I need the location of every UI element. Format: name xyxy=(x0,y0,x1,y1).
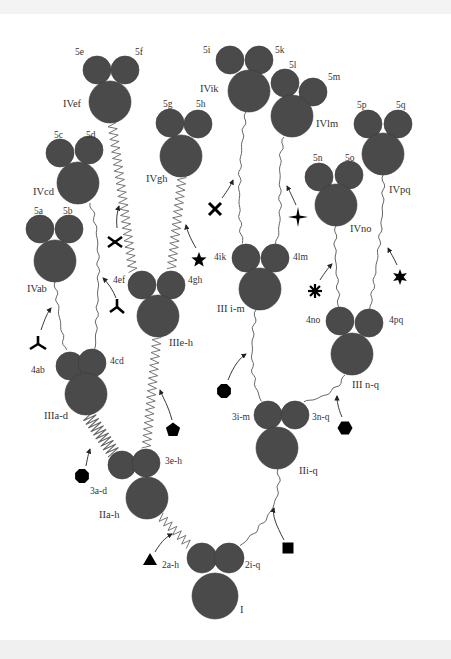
linker-IVcd-to-4cd xyxy=(90,203,100,349)
octagon-marker xyxy=(75,469,89,483)
subunit-label: 5e xyxy=(75,47,84,57)
subunit-label: 5k xyxy=(275,45,285,55)
node-label: IVpq xyxy=(389,184,411,195)
node-IIIi-m xyxy=(232,244,289,310)
node-label: IVlm xyxy=(316,118,338,129)
node-label: IVik xyxy=(200,83,219,94)
arrow-square-marker xyxy=(273,508,284,540)
subunit-label: 2a-h xyxy=(162,560,179,570)
subunit-label: 3a-d xyxy=(90,486,107,496)
linker-IVpq-to-4pq xyxy=(370,175,385,309)
node-label: IIa-h xyxy=(99,509,120,520)
subunit-circle-4cd xyxy=(78,349,106,377)
node-label: IIi-q xyxy=(299,465,318,476)
node-IIIe-h xyxy=(128,271,185,337)
inverted-y-marker xyxy=(110,299,124,313)
subunit-label: 4ik xyxy=(214,252,226,262)
main-circle-IVef xyxy=(89,81,131,123)
linker-IVik-to-4ik xyxy=(239,112,247,244)
lineage-tree-diagram: I2a-h2i-qIIa-h3a-d3e-hIIi-q3i-m3n-qIIIa-… xyxy=(0,0,451,659)
linker-IIIn-q-to-3n-q xyxy=(304,375,345,402)
node-IVef xyxy=(83,56,139,123)
subunit-label: 5n xyxy=(313,153,323,163)
subunit-circle-4gh xyxy=(157,271,185,299)
subunit-circle-5l xyxy=(271,69,299,97)
node-label: IVcd xyxy=(33,186,55,197)
square-marker xyxy=(283,543,294,554)
main-circle-IIIe-h xyxy=(137,295,179,337)
subunit-label: 5m xyxy=(328,72,341,82)
arrow-octagon-marker xyxy=(228,354,246,380)
subunit-label: 4cd xyxy=(110,356,124,366)
subunit-circle-5h xyxy=(184,110,212,138)
subunit-label: 4lm xyxy=(293,252,308,262)
node-label: IVab xyxy=(27,283,47,294)
linker-IVlm-to-4lm xyxy=(276,137,284,244)
node-IVcd xyxy=(46,136,103,204)
main-circle-IIIa-d xyxy=(65,373,107,415)
subunit-circle-2a-h xyxy=(187,543,217,573)
node-IVgh xyxy=(156,109,212,177)
main-circle-IIIi-m xyxy=(239,268,281,310)
arrow-hexagon-marker xyxy=(337,396,342,417)
subunit-label: 5b xyxy=(63,206,73,216)
node-label: III i-m xyxy=(217,303,245,314)
main-circle-IIa-h xyxy=(126,477,168,519)
linker-IIIa-d-to-3a-d xyxy=(83,411,118,457)
subunit-label: 5i xyxy=(203,45,211,55)
arrow-six-point-star-marker xyxy=(388,248,397,265)
subunit-label: 4no xyxy=(306,315,321,325)
main-circle-IIIn-q xyxy=(331,333,373,375)
main-circle-I xyxy=(192,573,238,619)
hexagon-marker xyxy=(338,422,353,435)
subunit-circle-5e xyxy=(83,56,111,84)
subunit-label: 4ab xyxy=(31,365,45,375)
subunit-circle-4ik xyxy=(232,244,260,272)
arrow-y-shape-marker xyxy=(41,308,51,330)
asterisk-marker xyxy=(308,284,322,298)
linker-IIIe-h-to-3e-h xyxy=(142,337,162,448)
subunit-label: 3e-h xyxy=(165,456,182,466)
star-marker xyxy=(191,252,206,267)
arrow-octagon-marker xyxy=(86,449,90,466)
subunit-label: 3i-m xyxy=(232,412,251,422)
triangle-marker xyxy=(143,553,157,565)
main-circle-IVno xyxy=(315,184,357,226)
subunit-circle-5f xyxy=(111,56,139,84)
subunit-circle-5a xyxy=(26,215,54,243)
subunit-circle-5i xyxy=(216,46,244,74)
node-IVik xyxy=(216,46,273,112)
labels-layer: I2a-h2i-qIIa-h3a-d3e-hIIi-q3i-m3n-qIIIa-… xyxy=(27,45,411,615)
node-label: III n-q xyxy=(352,379,380,390)
subunit-label: 5c xyxy=(54,130,63,140)
arrow-triangle-marker xyxy=(155,534,172,552)
main-circle-IVlm xyxy=(271,95,313,137)
subunit-circle-3i-m xyxy=(254,401,282,429)
subunit-circle-5c xyxy=(46,139,74,167)
node-IIi-q xyxy=(254,401,309,469)
arrow-pentagon-marker xyxy=(160,390,172,420)
subunit-label: 3n-q xyxy=(312,412,330,422)
octagon-marker xyxy=(217,384,231,398)
node-IVpq xyxy=(354,110,412,175)
node-label: IVno xyxy=(350,223,372,234)
main-circle-IVpq xyxy=(362,133,404,175)
subunit-circle-3a-d xyxy=(108,451,136,479)
subunit-label: 5h xyxy=(196,99,206,109)
subunit-circle-5b xyxy=(55,215,83,243)
arrow-asterisk-marker xyxy=(320,264,332,280)
subunit-circle-4ef xyxy=(128,271,156,299)
linker-IVef-to-4ef xyxy=(108,122,137,272)
six-point-star-marker xyxy=(393,269,407,285)
node-IVno xyxy=(305,161,363,226)
subunit-label: 2i-q xyxy=(245,560,261,570)
node-label: I xyxy=(240,604,244,615)
nodes-layer xyxy=(26,46,412,619)
linker-IVno-to-4no xyxy=(334,226,340,307)
main-circle-IIi-q xyxy=(256,427,298,469)
subunit-circle-5g xyxy=(156,109,184,137)
main-circle-IVik xyxy=(228,70,270,112)
subunit-circle-3e-h xyxy=(132,449,160,477)
linker-IVab-to-4ab xyxy=(54,282,67,350)
node-label: IVef xyxy=(63,98,82,109)
